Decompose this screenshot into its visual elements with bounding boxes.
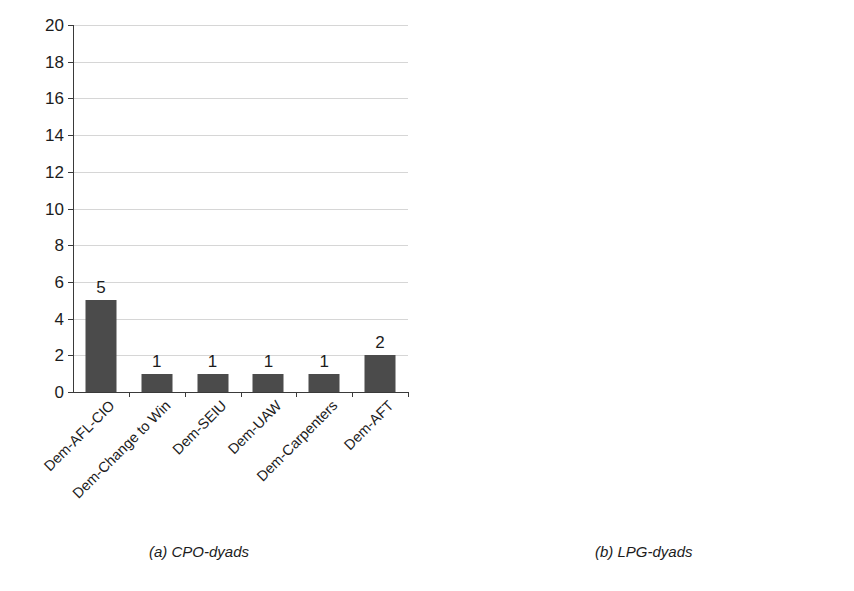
chart-panel-a: 02468101214161820 511112 Dem-AFL-CIODem-… xyxy=(0,0,427,591)
bar-value-label: 1 xyxy=(152,353,161,370)
x-axis-tick xyxy=(408,392,409,397)
bar-slot: 1 xyxy=(185,25,241,392)
bars-a: 511112 xyxy=(73,25,408,392)
y-axis-tick-label: 0 xyxy=(55,384,64,401)
y-axis-tick-label: 20 xyxy=(45,17,64,34)
figure-two-bar-charts: 02468101214161820 511112 Dem-AFL-CIODem-… xyxy=(0,0,854,591)
x-axis-tick xyxy=(185,392,186,397)
plot-area-a: 02468101214161820 511112 xyxy=(73,25,408,392)
bar[interactable] xyxy=(365,355,396,392)
x-axis-tick xyxy=(352,392,353,397)
bar-value-label: 2 xyxy=(375,334,384,351)
y-axis-tick-label: 12 xyxy=(45,163,64,180)
bar[interactable] xyxy=(141,374,172,392)
bar[interactable] xyxy=(309,374,340,392)
x-axis-tick xyxy=(129,392,130,397)
x-axis-category-label: Dem-UAW xyxy=(226,398,285,457)
y-axis-tick-label: 18 xyxy=(45,53,64,70)
y-axis-tick-label: 6 xyxy=(55,273,64,290)
bar-value-label: 1 xyxy=(208,353,217,370)
bar-slot: 1 xyxy=(129,25,185,392)
y-axis-tick xyxy=(68,392,73,393)
x-axis-tick xyxy=(241,392,242,397)
bar-value-label: 5 xyxy=(96,279,105,296)
bar-value-label: 1 xyxy=(264,353,273,370)
bar-slot: 1 xyxy=(296,25,352,392)
bar[interactable] xyxy=(253,374,284,392)
bar[interactable] xyxy=(197,374,228,392)
caption-a: (a) CPO-dyads xyxy=(149,543,249,560)
x-axis-tick xyxy=(296,392,297,397)
y-axis-tick-label: 8 xyxy=(55,237,64,254)
y-axis-tick-label: 14 xyxy=(45,127,64,144)
y-axis-tick-label: 2 xyxy=(55,347,64,364)
chart-panel-b: 02468101214161820 311222 Dem-AFL-CIODem-… xyxy=(427,0,854,591)
y-axis-tick-label: 10 xyxy=(45,200,64,217)
bar[interactable] xyxy=(85,300,116,392)
x-axis-category-label: Dem-Change to Win xyxy=(70,398,173,501)
bar-slot: 5 xyxy=(73,25,129,392)
bar-value-label: 1 xyxy=(320,353,329,370)
bar-slot: 2 xyxy=(352,25,408,392)
x-axis-category-label: Dem-AFT xyxy=(342,398,397,453)
y-axis-tick-label: 4 xyxy=(55,310,64,327)
caption-b: (b) LPG-dyads xyxy=(595,543,693,560)
bar-slot: 1 xyxy=(241,25,297,392)
y-axis-tick-label: 16 xyxy=(45,90,64,107)
x-axis-category-label: Dem-SEIU xyxy=(170,398,229,457)
